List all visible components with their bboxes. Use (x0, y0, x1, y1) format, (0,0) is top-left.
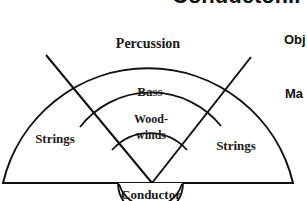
label-bass: Bass (137, 84, 162, 99)
label-conductor: Conductor (121, 187, 181, 201)
label-strings-right: Strings (216, 138, 256, 153)
title-partial: Conductor... (172, 0, 300, 8)
label-strings-left: Strings (35, 131, 75, 146)
side-text-obj: Obj (284, 32, 306, 47)
orchestra-seating-diagram: Conductor... Percussion Bass Wood- winds… (0, 0, 307, 201)
label-woodwinds-2: winds (136, 128, 166, 142)
label-woodwinds-1: Wood- (134, 112, 168, 126)
side-text-ma: Ma (285, 86, 304, 101)
label-percussion: Percussion (116, 36, 181, 51)
